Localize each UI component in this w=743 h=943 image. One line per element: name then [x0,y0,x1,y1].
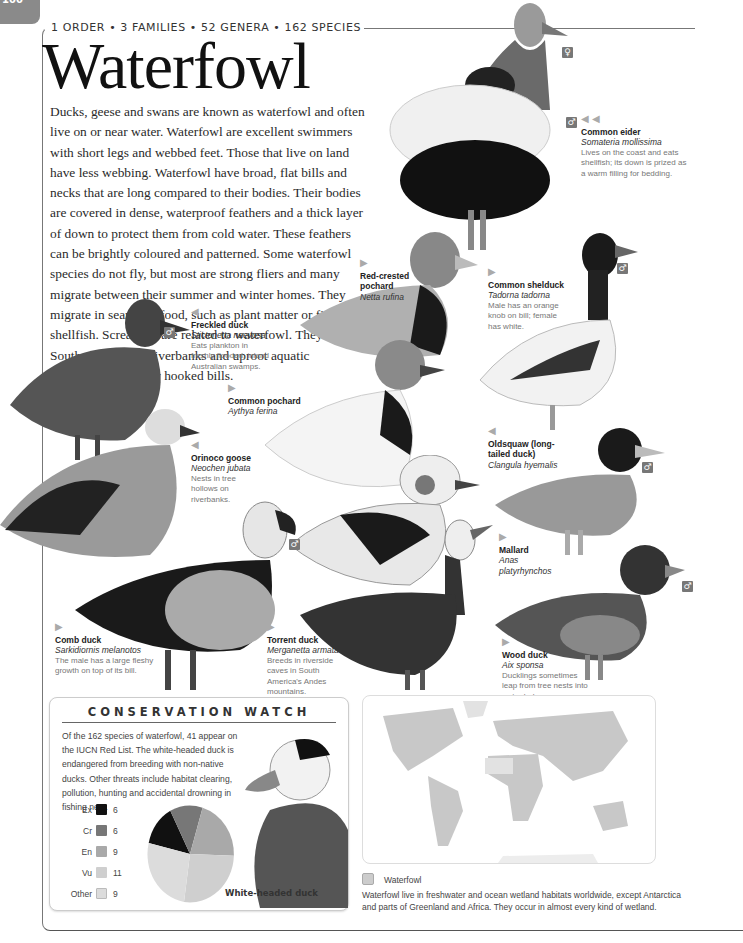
male-symbol-icon: ♂ [642,462,653,473]
legend-code: En [60,847,92,857]
species-latin: Aix sponsa [502,660,592,671]
arrow-right-icon: ▶ [502,637,510,648]
status-icon [96,846,107,857]
species-label-mallard: ▶ MallardAnas platyrhynchos [499,532,554,576]
page-number-tab: 100 [0,0,40,24]
map-legend: Waterfowl [362,873,421,885]
legend-code: Ex [60,805,92,815]
map-description: Waterfowl live in freshwater and ocean w… [362,890,692,913]
conservation-text: Of the 162 species of waterfowl, 41 appe… [62,729,248,814]
species-name: Oldsquaw (long-tailed duck) [488,439,568,460]
species-name: Mallard [499,545,554,556]
legend-ex: Ex6 [60,804,118,815]
status-icon [96,804,107,815]
species-desc: The male has a large fleshy growth on to… [55,656,153,676]
species-desc: Eats plankton in freshly flooded, inland… [191,341,269,371]
male-symbol-icon: ♂ [682,581,693,592]
male-symbol-icon: ♂ [289,539,300,550]
species-label-common-shelduck: ▶ Common shelduckTadorna tadornaMale has… [488,267,568,332]
species-name: Freckled duck [191,320,271,331]
species-latin: Merganetta armata [267,645,352,656]
legend-count: 9 [113,847,118,857]
species-name: Wood duck [502,650,592,661]
legend-other: Other9 [60,888,118,899]
species-latin: Netta rufina [360,292,430,303]
species-label-wood-duck: ▶ Wood duckAix sponsaDucklings sometimes… [502,637,592,702]
status-icon [96,825,107,836]
species-latin: Somateria mollissima [581,137,691,148]
legend-en: En9 [60,846,118,857]
species-name: Common pochard [228,396,308,407]
species-latin: Tadorna tadorna [488,290,568,301]
species-label-red-crested-pochard: ▶ Red-crested pochardNetta rufina [360,258,430,302]
arrow-right-icon: ▶ [228,383,236,394]
arrow-right-icon: ▶ [488,267,496,278]
species-desc: Breeds in riverside caves in South Ameri… [267,656,333,697]
arrow-left-icon: ◀ [488,426,496,437]
species-label-common-eider: ◀ ◀ Common eiderSomateria mollissimaLive… [581,114,691,179]
species-desc: Nests in tree hollows on riverbanks. [191,474,236,504]
legend-cr: Cr6 [60,825,118,836]
arrow-right-icon: ▶ [499,532,507,543]
species-desc: Lives on the coast and eats shellfish; i… [581,148,686,178]
species-name: Red-crested pochard [360,271,430,292]
legend-count: 6 [113,826,118,836]
species-label-common-pochard: ▶ Common pochardAythya ferina [228,383,308,417]
species-latin: Neochen jubata [191,463,261,474]
white-headed-duck-illustration [240,730,348,908]
legend-code: Cr [60,826,92,836]
species-name: Torrent duck [267,635,352,646]
species-desc: Male has an orange knob on bill; female … [488,301,559,331]
red-list-pie-chart [144,803,236,905]
species-name: Orinoco goose [191,453,261,464]
legend-code: Vu [60,868,92,878]
arrow-right-icon: ▶ [360,258,368,269]
conservation-title: CONSERVATION WATCH [50,705,348,719]
legend-label: Waterfowl [384,875,421,885]
legend-vu: Vu11 [60,867,122,878]
male-symbol-icon: ♂ [617,263,628,274]
species-latin: Clangula hyemalis [488,460,568,471]
arrow-left-icon: ◀ [191,307,199,318]
divider [62,722,336,723]
species-label-orinoco-goose: ◀ Orinoco gooseNeochen jubataNests in tr… [191,440,261,505]
species-latin: Aythya ferina [228,406,308,417]
world-distribution-map [362,695,656,864]
species-name: Common eider [581,127,691,138]
page-number: 100 [2,0,23,5]
legend-code: Other [60,889,92,899]
species-name: Comb duck [55,635,155,646]
species-latin: Sarkidiornis melanotos [55,645,155,656]
status-icon [96,867,107,878]
conservation-watch-panel: CONSERVATION WATCH Of the 162 species of… [49,697,349,911]
arrow-right-icon: ▶ [267,622,275,633]
species-name: Common shelduck [488,280,568,291]
male-symbol-icon: ♂ [566,117,577,128]
species-label-comb-duck: ▶ Comb duckSarkidiornis melanotosThe mal… [55,622,155,677]
species-latin: Stictonetta naevosa [191,330,271,341]
legend-count: 9 [113,889,118,899]
legend-count: 6 [113,805,118,815]
species-latin: Anas platyrhynchos [499,555,554,576]
page-title: Waterfowl [42,28,310,104]
world-map-shapes [363,696,655,863]
status-icon [96,888,107,899]
white-headed-duck-caption: White-headed duck [225,888,318,898]
male-symbol-icon: ♂ [164,327,175,338]
legend-count: 11 [113,868,122,878]
arrow-left-icon: ◀ ◀ [581,114,600,125]
arrow-right-icon: ▶ [55,622,63,633]
female-symbol-icon: ♀ [562,47,573,58]
legend-swatch [362,873,374,885]
arrow-left-icon: ◀ [191,440,199,451]
species-label-freckled-duck: ◀ Freckled duckStictonetta naevosaEats p… [191,307,271,372]
species-label-torrent-duck: ▶ Torrent duckMerganetta armataBreeds in… [267,622,352,698]
species-label-oldsquaw: ◀ Oldsquaw (long-tailed duck)Clangula hy… [488,426,568,470]
